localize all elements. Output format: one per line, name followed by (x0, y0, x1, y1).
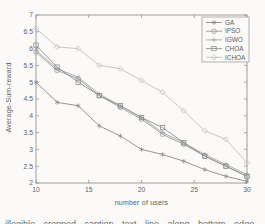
x-axis-label: number of users (36, 199, 247, 206)
legend-label: GA (225, 19, 235, 26)
legend-label: ICHOA (225, 54, 246, 61)
y-tick-label: 5 (29, 79, 33, 86)
x-tick-label: 20 (138, 186, 146, 193)
series-line-GA (36, 82, 247, 181)
legend-label: IGWO (225, 36, 243, 43)
y-tick-label: 6 (29, 45, 33, 52)
series-line-CHOA (36, 45, 247, 176)
legend: GAIPSOIGWOCHOAICHOA (202, 17, 249, 62)
x-tick-label: 15 (85, 186, 93, 193)
y-tick-label: 4.5 (24, 95, 34, 102)
x-tick-label: 10 (32, 186, 40, 193)
legend-label: IPSO (225, 27, 240, 34)
series-GA (34, 80, 249, 184)
y-tick-label: 6.5 (24, 28, 34, 35)
y-tick-label: 4 (29, 112, 33, 119)
y-tick-label: 3.5 (24, 129, 34, 136)
line-chart: 101520253022.533.544.555.566.57GAIPSOIGW… (0, 0, 265, 224)
y-tick-label: 7 (29, 11, 33, 18)
y-tick-label: 5.5 (24, 62, 34, 69)
y-tick-label: 2 (29, 179, 33, 186)
figure: 101520253022.533.544.555.566.57GAIPSOIGW… (0, 0, 265, 224)
series-IPSO (34, 50, 250, 179)
x-tick-label: 30 (243, 186, 251, 193)
series-CHOA (34, 43, 249, 178)
y-tick-label: 2.5 (24, 163, 34, 170)
y-tick-label: 3 (29, 146, 33, 153)
x-tick-label: 25 (190, 186, 198, 193)
y-axis-label: Average-Sum-reward (5, 48, 12, 148)
legend-label: CHOA (225, 45, 244, 52)
cropped-caption-fragment: illegible cropped caption text line alon… (5, 219, 257, 224)
series-line-IPSO (36, 52, 247, 176)
series-line-IGWO (36, 50, 247, 174)
series-IGWO (34, 48, 250, 177)
